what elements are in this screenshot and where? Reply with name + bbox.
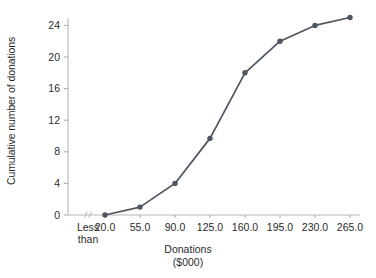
y-tick-label-2: 8 [26,146,60,156]
data-point-marker-1[interactable] [137,204,142,209]
data-point-marker-5[interactable] [277,39,282,44]
y-tick-label-3: 12 [26,115,60,125]
x-tick-label-5: 195.0 [261,222,299,234]
series-layer [64,10,364,218]
series-line [105,18,350,216]
data-point-marker-2[interactable] [172,181,177,186]
y-tick-label-0: 0 [26,210,60,220]
x-tick-label-6: 230.0 [296,222,334,234]
y-tick-label-6: 24 [26,20,60,30]
x-tick-label-4: 160.0 [226,222,264,234]
y-axis-tick-labels: 04812162024 [22,0,60,240]
x-tick-label-0: 20.0 [86,222,124,234]
data-point-marker-6[interactable] [312,23,317,28]
x-axis-title: Donations ($000) [0,243,376,268]
data-point-marker-7[interactable] [347,15,352,20]
data-point-marker-4[interactable] [242,70,247,75]
plot-area [64,10,364,218]
y-axis-title: Cumulative number of donations [0,0,22,222]
x-tick-label-7: 265.0 [331,222,369,234]
data-point-marker-3[interactable] [207,136,212,141]
y-axis-title-text: Cumulative number of donations [5,37,17,185]
y-tick-label-5: 20 [26,52,60,62]
x-tick-label-3: 125.0 [191,222,229,234]
data-point-marker-0[interactable] [102,212,107,217]
cumulative-donations-chart: Cumulative number of donations 048121620… [0,0,376,278]
x-axis-title-line2: ($000) [0,256,376,269]
y-tick-label-4: 16 [26,83,60,93]
x-axis-title-line1: Donations [0,243,376,256]
x-tick-label-1: 55.0 [121,222,159,234]
y-tick-label-1: 4 [26,178,60,188]
x-tick-label-2: 90.0 [156,222,194,234]
